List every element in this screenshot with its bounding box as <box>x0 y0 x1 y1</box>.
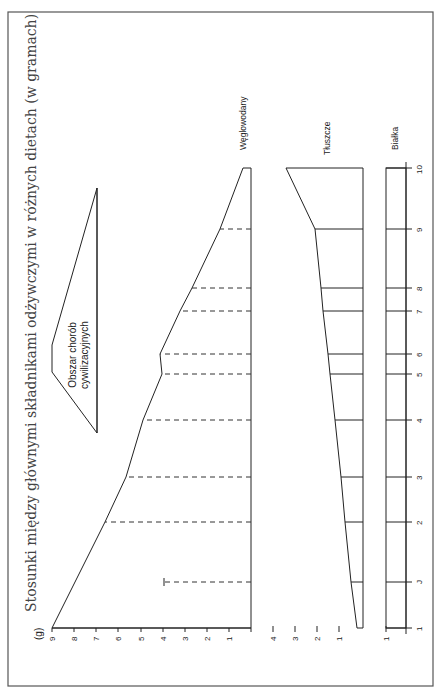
svg-text:3: 3 <box>415 475 424 480</box>
carbohydrates-area <box>52 168 251 628</box>
carbohydrates-label: Węglowodany <box>238 96 248 150</box>
svg-text:4: 4 <box>415 418 424 423</box>
svg-text:6: 6 <box>114 636 123 641</box>
svg-text:5: 5 <box>137 636 146 641</box>
svg-text:8: 8 <box>70 636 79 641</box>
svg-text:2: 2 <box>313 636 322 641</box>
fats-panel: 4 3 2 1 Tłuszcze <box>269 121 363 641</box>
callout-shape <box>52 188 97 433</box>
svg-text:7: 7 <box>415 309 424 314</box>
svg-text:6: 6 <box>415 352 424 357</box>
proteins-label: Białka <box>390 127 400 150</box>
proteins-area <box>386 168 406 628</box>
svg-text:2: 2 <box>203 636 212 641</box>
carbs-y-ticks: 9 8 7 6 5 4 3 2 1 <box>48 628 251 641</box>
diet-axis-labels: 1 J 2 3 4 5 6 7 8 9 10 <box>415 165 424 631</box>
svg-text:5: 5 <box>415 372 424 377</box>
fats-area <box>286 168 363 628</box>
svg-text:4: 4 <box>269 636 278 641</box>
svg-text:1: 1 <box>335 636 344 641</box>
chart-title: Stosunki między głównymi składnikami odż… <box>23 14 39 612</box>
fats-y-ticks: 4 3 2 1 <box>269 626 344 641</box>
svg-text:2: 2 <box>415 520 424 525</box>
fats-label: Tłuszcze <box>322 121 332 155</box>
svg-text:4: 4 <box>159 636 168 641</box>
svg-text:1: 1 <box>382 636 391 641</box>
proteins-panel: 1 Białka <box>382 127 412 641</box>
svg-text:1: 1 <box>225 636 234 641</box>
nutrient-ratio-chart: Stosunki między głównymi składnikami odż… <box>0 0 438 698</box>
svg-text:Obszar chorób: Obszar chorób <box>67 322 78 388</box>
unit-label: (g) <box>33 628 44 640</box>
svg-text:3: 3 <box>181 636 190 641</box>
svg-text:8: 8 <box>415 286 424 291</box>
svg-text:9: 9 <box>48 636 57 641</box>
svg-text:7: 7 <box>92 636 101 641</box>
svg-text:3: 3 <box>291 636 300 641</box>
svg-text:J: J <box>415 580 424 584</box>
civilization-diseases-callout: Obszar chorób cywilizacyjnych <box>52 188 97 433</box>
svg-text:10: 10 <box>415 165 424 174</box>
svg-text:9: 9 <box>415 227 424 232</box>
svg-text:1: 1 <box>415 626 424 631</box>
svg-text:cywilizacyjnych: cywilizacyjnych <box>79 321 90 389</box>
